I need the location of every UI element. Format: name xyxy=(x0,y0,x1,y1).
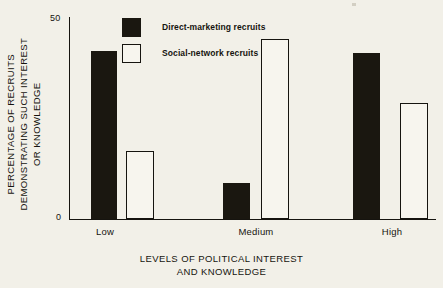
legend-item-social-network: Social-network recruits xyxy=(122,40,266,66)
bar-medium-social-network xyxy=(261,39,289,219)
x-axis-tick-medium: Medium xyxy=(239,226,274,237)
bar-high-social-network xyxy=(400,103,428,219)
legend-label-direct-marketing: Direct-marketing recruits xyxy=(162,22,266,32)
legend-item-direct-marketing: Direct-marketing recruits xyxy=(122,14,266,40)
legend: Direct-marketing recruits Social-network… xyxy=(122,14,266,66)
x-axis-tick-high: High xyxy=(382,226,402,237)
scan-artifact xyxy=(352,3,356,6)
y-axis-title-line-3: OR KNOWLEDGE xyxy=(30,24,43,224)
x-axis-title-line-1: LEVELS OF POLITICAL INTEREST xyxy=(0,253,443,266)
x-axis-title: LEVELS OF POLITICAL INTEREST AND KNOWLED… xyxy=(0,253,443,278)
bar-low-social-network xyxy=(126,151,154,219)
x-axis-title-line-2: AND KNOWLEDGE xyxy=(0,266,443,279)
x-axis-tick-low: Low xyxy=(96,226,114,237)
bar-high-direct-marketing xyxy=(353,53,380,219)
legend-label-social-network: Social-network recruits xyxy=(162,48,258,58)
legend-swatch-hollow-icon xyxy=(122,44,141,63)
bar-medium-direct-marketing xyxy=(223,183,250,219)
y-axis-title: PERCENTAGE OF RECRUITS DEMONSTRATING SUC… xyxy=(5,24,43,224)
y-axis-title-line-2: DEMONSTRATING SUCH INTEREST xyxy=(18,24,31,224)
y-axis-title-line-1: PERCENTAGE OF RECRUITS xyxy=(5,24,18,224)
legend-swatch-filled-icon xyxy=(122,18,141,37)
bar-low-direct-marketing xyxy=(91,51,117,219)
bar-chart: 50 0 Low Medium High PERCENTAGE OF RECRU… xyxy=(0,0,443,288)
